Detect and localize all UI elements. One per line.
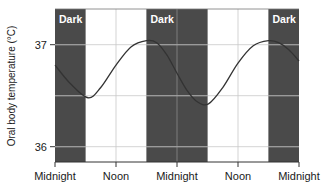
y-tick-label: 36 <box>35 141 47 153</box>
gridlines <box>55 9 299 162</box>
dark-band-label: Dark <box>151 13 175 25</box>
y-axis-ticks: 3637 <box>35 39 55 153</box>
temperature-chart: DarkDarkDark MidnightNoonMidnightNoonMid… <box>0 0 334 191</box>
x-tick-label: Midnight <box>278 170 320 182</box>
x-axis-ticks: MidnightNoonMidnightNoonMidnight <box>34 162 320 182</box>
y-axis-title: Oral body temperature (°C) <box>6 26 17 147</box>
x-tick-label: Noon <box>103 170 129 182</box>
y-tick-label: 37 <box>35 39 47 51</box>
dark-band-label: Dark <box>273 13 297 25</box>
x-tick-label: Midnight <box>156 170 198 182</box>
dark-band <box>269 9 300 162</box>
dark-band-label: Dark <box>59 13 83 25</box>
x-tick-label: Midnight <box>34 170 76 182</box>
dark-band <box>55 9 86 162</box>
x-tick-label: Noon <box>225 170 251 182</box>
